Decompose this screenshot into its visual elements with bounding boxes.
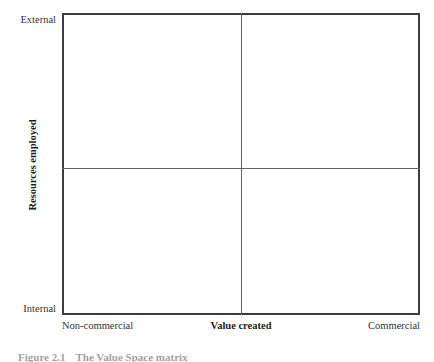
figure-caption-text: The Value Space matrix <box>75 351 187 362</box>
y-axis-title: Resources employed <box>27 119 39 210</box>
figure-container: External Internal Resources employed Non… <box>0 0 434 362</box>
quadrant-divider-vertical <box>241 13 242 315</box>
x-axis-right-label: Commercial <box>0 320 420 332</box>
quadrant-divider-horizontal <box>62 168 420 169</box>
y-axis-top-label: External <box>0 14 56 26</box>
figure-caption: Figure 2.1The Value Space matrix <box>18 351 418 362</box>
y-axis-title-container: Resources employed <box>25 100 41 230</box>
y-axis-bottom-label: Internal <box>0 303 56 315</box>
figure-caption-number: Figure 2.1 <box>18 351 65 362</box>
